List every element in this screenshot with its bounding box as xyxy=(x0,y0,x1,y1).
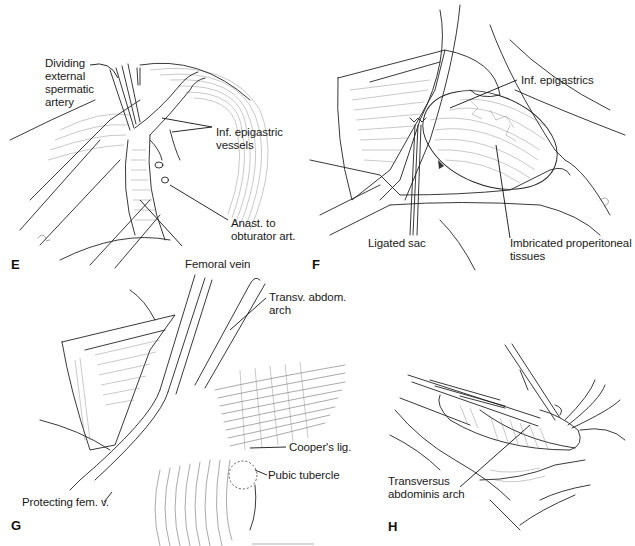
label-ligated-sac: Ligated sac xyxy=(368,237,426,250)
label-pubic-tubercle: Pubic tubercle xyxy=(268,469,339,482)
cropped-caption xyxy=(252,543,314,545)
label-protecting-fem-v: Protecting fem. v. xyxy=(22,496,109,509)
panel-letter-h: H xyxy=(388,519,397,534)
label-inf-epigastrics: Inf. epigastrics xyxy=(521,74,594,87)
pubic-tubercle-marker xyxy=(229,461,257,489)
label-dividing-external-spermatic-artery: Dividing external spermatic artery xyxy=(45,57,94,109)
panel-f: Inf. epigastrics Ligated sac Imbricated … xyxy=(310,0,635,280)
panel-h-illustration xyxy=(340,300,635,546)
panel-g: Transv. abdom. arch Cooper's lig. Pubic … xyxy=(0,270,360,546)
label-imbricated-properitoneal-tissues: Imbricated properitoneal tissues xyxy=(510,237,632,263)
label-inf-epigastric-vessels: Inf. epigastric vessels xyxy=(216,126,283,152)
label-anast-to-obturator-art: Anast. to obturator art. xyxy=(231,217,295,243)
panel-h: Transversus abdominis arch H xyxy=(340,300,635,546)
panel-e: Dividing external spermatic artery Inf. … xyxy=(0,0,310,270)
panel-letter-g: G xyxy=(11,518,21,533)
label-transversus-abdominis-arch: Transversus abdominis arch xyxy=(388,475,465,501)
